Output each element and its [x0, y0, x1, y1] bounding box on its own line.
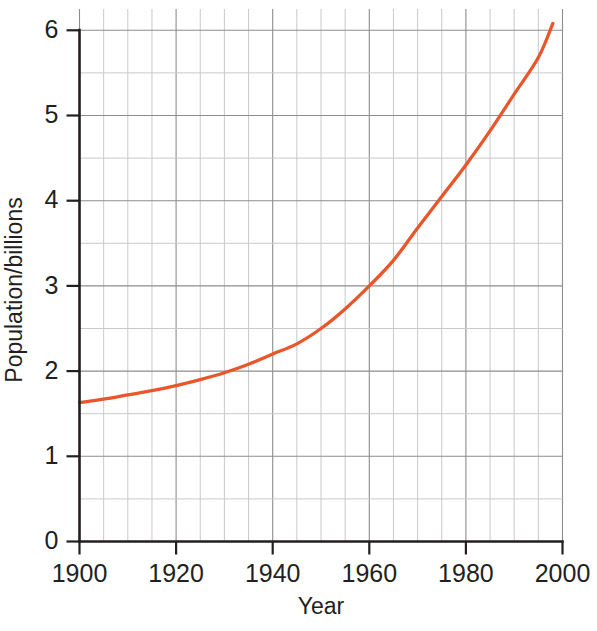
x-axis-tick-label: 1920 [148, 559, 204, 587]
x-axis-tick-label: 1980 [438, 559, 494, 587]
y-axis-tick-label: 2 [45, 356, 59, 384]
y-axis-tick-label: 4 [45, 185, 59, 213]
y-axis-tick-label: 5 [45, 100, 59, 128]
y-axis-title: Population/billions [1, 197, 27, 382]
y-axis-tick-label: 3 [45, 271, 59, 299]
y-axis-tick-label: 0 [45, 526, 59, 554]
y-axis-tick-label: 6 [45, 15, 59, 43]
x-axis-tick-label: 1960 [341, 559, 397, 587]
x-axis-title: Year [298, 593, 345, 619]
chart-canvas: 0123456 190019201940196019802000 Year Po… [0, 0, 597, 631]
y-axis-tick-label: 1 [45, 441, 59, 469]
chart-background [0, 0, 597, 631]
x-axis-tick-label: 2000 [535, 559, 591, 587]
population-line-chart: 0123456 190019201940196019802000 Year Po… [0, 0, 597, 631]
x-axis-tick-label: 1900 [52, 559, 108, 587]
x-axis-tick-label: 1940 [245, 559, 301, 587]
